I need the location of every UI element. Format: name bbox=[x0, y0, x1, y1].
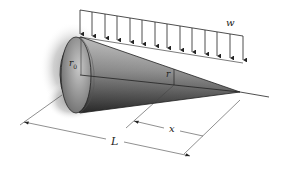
cone-beam-figure bbox=[0, 0, 284, 171]
diagram-canvas: w r0 r x L bbox=[0, 0, 284, 171]
distance-x-label: x bbox=[169, 124, 175, 134]
load-label-w: w bbox=[226, 18, 235, 28]
x-dimension-left bbox=[134, 121, 164, 128]
L-dimension-left bbox=[24, 122, 106, 139]
L-dimension-right bbox=[124, 142, 190, 156]
x-dimension-right bbox=[180, 131, 203, 136]
section-radius-label: r bbox=[166, 70, 170, 79]
base-radius-label: r0 bbox=[69, 59, 77, 70]
load-top-line bbox=[80, 10, 243, 36]
axis-extension bbox=[240, 92, 269, 97]
length-L-label: L bbox=[111, 136, 118, 147]
cone-base-face bbox=[61, 37, 91, 113]
cone-body bbox=[60, 37, 269, 113]
extension-line-tip bbox=[184, 100, 240, 154]
base-radius-subscript: 0 bbox=[73, 63, 77, 70]
